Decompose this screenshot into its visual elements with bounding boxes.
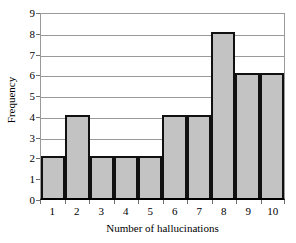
x-axis-tick-label: 4 xyxy=(114,205,139,219)
x-axis-tick-labels: 12345678910 xyxy=(40,205,285,219)
x-axis-tick-mark xyxy=(114,200,139,204)
bar xyxy=(162,115,186,198)
bars-container xyxy=(41,14,284,198)
x-axis-tick-label: 9 xyxy=(236,205,261,219)
x-axis-tick-label: 6 xyxy=(163,205,188,219)
plot-area xyxy=(40,13,285,200)
bar xyxy=(211,32,235,198)
histogram-chart: Frequency 0123456789 12345678910 Number … xyxy=(0,0,296,243)
x-axis-tick-label: 7 xyxy=(187,205,212,219)
bar xyxy=(187,115,211,198)
x-axis-tick-mark xyxy=(187,200,212,204)
x-axis-tick-label: 3 xyxy=(89,205,114,219)
bar xyxy=(235,73,259,198)
y-axis-title-label: Frequency xyxy=(5,77,17,123)
x-axis-tick-mark xyxy=(261,200,286,204)
bar xyxy=(114,156,138,198)
y-axis-title: Frequency xyxy=(0,0,22,200)
x-axis-tick-label: 5 xyxy=(138,205,163,219)
bar xyxy=(65,115,89,198)
x-axis-tick-mark xyxy=(212,200,237,204)
x-axis-tick-marks xyxy=(40,200,285,204)
x-axis-tick-mark xyxy=(236,200,261,204)
bar xyxy=(90,156,114,198)
x-axis-tick-label: 2 xyxy=(65,205,90,219)
bar xyxy=(260,73,284,198)
x-axis-tick-mark xyxy=(138,200,163,204)
x-axis-tick-mark xyxy=(89,200,114,204)
x-axis-tick-label: 1 xyxy=(40,205,65,219)
x-axis-tick-label: 10 xyxy=(261,205,286,219)
x-axis-tick-mark xyxy=(40,200,65,204)
x-axis-tick-mark xyxy=(163,200,188,204)
bar xyxy=(138,156,162,198)
x-axis-title: Number of hallucinations xyxy=(40,222,285,235)
bar xyxy=(41,156,65,198)
x-axis-tick-mark xyxy=(65,200,90,204)
x-axis-tick-label: 8 xyxy=(212,205,237,219)
